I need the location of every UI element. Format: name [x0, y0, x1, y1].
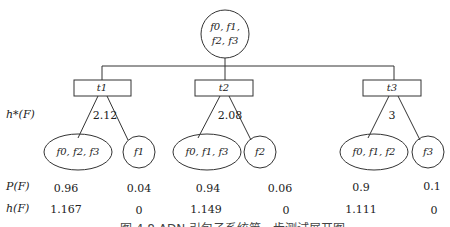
h-t3-left: 1.111 [345, 203, 377, 216]
test-label-t3: t3 [387, 81, 397, 95]
h-t1-right: 0 [136, 204, 143, 217]
h-t2-right: 0 [283, 204, 290, 217]
leaf-t1-left-label: f0, f2, f3 [57, 145, 100, 159]
P-t1-right: 0.04 [127, 182, 152, 195]
figure-caption: 图 4.8 ADN 引包子系统第一步测试展开图 [120, 219, 345, 227]
P-t2-left: 0.94 [196, 182, 221, 195]
hstar-t1: 2.12 [93, 109, 118, 122]
row-label-h: h(F) [6, 202, 29, 215]
root-label: f0, f1, f2, f3 [210, 20, 240, 48]
leaf-t3-left-label: f0, f1, f2 [353, 145, 396, 159]
P-t3-left: 0.9 [352, 181, 370, 194]
leaf-t1-right-label: f1 [134, 145, 144, 159]
P-t3-right: 0.1 [423, 180, 441, 193]
row-label-P: P(F) [6, 180, 30, 193]
test-label-t1: t1 [97, 81, 107, 95]
leaf-t3-right-label: f3 [423, 145, 433, 159]
P-t2-right: 0.06 [268, 182, 293, 195]
P-t1-left: 0.96 [54, 182, 79, 195]
h-t1-left: 1.167 [50, 203, 82, 216]
hstar-t3: 3 [389, 109, 396, 122]
hstar-t2: 2.08 [218, 109, 243, 122]
test-label-t2: t2 [219, 81, 229, 95]
h-t3-right: 0 [431, 204, 438, 217]
leaf-t2-left-label: f0, f1, f3 [186, 145, 229, 159]
h-t2-left: 1.149 [190, 203, 222, 216]
leaf-t2-right-label: f2 [255, 145, 265, 159]
row-label-hstar: h*(F) [6, 108, 35, 121]
